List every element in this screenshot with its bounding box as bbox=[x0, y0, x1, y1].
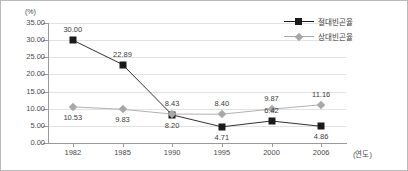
legend-item-absolute[interactable]: 절대빈곤율 bbox=[284, 14, 400, 29]
x-axis-tick-label: 1990 bbox=[152, 148, 192, 158]
data-point-marker bbox=[218, 123, 225, 130]
x-axis-tick bbox=[172, 143, 173, 147]
x-axis-tick bbox=[222, 143, 223, 147]
y-axis-line bbox=[48, 23, 49, 144]
x-axis-tick bbox=[123, 143, 124, 147]
data-point-marker bbox=[119, 61, 126, 68]
legend: 절대빈곤율 상대빈곤율 bbox=[284, 14, 400, 44]
legend-marker-diamond-icon bbox=[284, 31, 314, 42]
x-axis-labels-group: 198219851990199520002006 bbox=[1, 148, 408, 162]
x-axis-title: (연도) bbox=[353, 148, 372, 159]
data-point-label: 11.16 bbox=[312, 90, 330, 99]
y-axis-labels-group: 0.005.0010.0015.0020.0025.0030.0035.00 bbox=[1, 1, 45, 171]
poverty-rate-line-chart: (%) 30.0022.898.204.716.424.8610.539.838… bbox=[0, 0, 408, 171]
legend-marker-square-icon bbox=[284, 16, 314, 27]
data-point-label: 8.43 bbox=[165, 99, 180, 108]
x-axis-tick-label: 1995 bbox=[202, 148, 242, 158]
data-point-marker bbox=[268, 117, 275, 124]
y-axis-tick-label: 10.00 bbox=[5, 105, 45, 113]
data-point-label: 30.00 bbox=[63, 25, 82, 34]
x-axis-tick-label: 1985 bbox=[103, 148, 143, 158]
data-point-label: 8.20 bbox=[165, 121, 180, 130]
data-point-label: 4.71 bbox=[215, 133, 230, 142]
y-axis-tick-label: 25.00 bbox=[5, 53, 45, 61]
x-axis-tick bbox=[321, 143, 322, 147]
x-axis-tick-label: 1982 bbox=[53, 148, 93, 158]
series-line-relative bbox=[73, 105, 321, 114]
data-point-marker bbox=[318, 123, 325, 130]
legend-label-relative: 상대빈곤율 bbox=[318, 31, 353, 42]
x-axis-tick-label: 2006 bbox=[301, 148, 341, 158]
data-point-label: 9.87 bbox=[264, 94, 279, 103]
data-point-label: 22.89 bbox=[113, 50, 132, 59]
data-point-label: 10.53 bbox=[63, 113, 82, 122]
y-axis-tick-label: 5.00 bbox=[5, 122, 45, 130]
x-axis-tick bbox=[73, 143, 74, 147]
legend-item-relative[interactable]: 상대빈곤율 bbox=[284, 29, 400, 44]
x-axis-tick bbox=[272, 143, 273, 147]
y-axis-tick-label: 0.00 bbox=[5, 139, 45, 147]
legend-label-absolute: 절대빈곤율 bbox=[318, 16, 353, 27]
data-point-label: 6.42 bbox=[264, 106, 279, 115]
y-axis-tick-label: 35.00 bbox=[5, 19, 45, 27]
data-point-label: 8.40 bbox=[215, 99, 230, 108]
data-point-marker bbox=[69, 37, 76, 44]
y-axis-tick-label: 15.00 bbox=[5, 88, 45, 96]
data-point-label: 9.83 bbox=[115, 115, 130, 124]
y-axis-tick-label: 20.00 bbox=[5, 70, 45, 78]
x-axis-tick-label: 2000 bbox=[252, 148, 292, 158]
data-point-label: 4.86 bbox=[314, 132, 329, 141]
x-axis-line bbox=[48, 143, 347, 144]
y-axis-tick-label: 30.00 bbox=[5, 36, 45, 44]
